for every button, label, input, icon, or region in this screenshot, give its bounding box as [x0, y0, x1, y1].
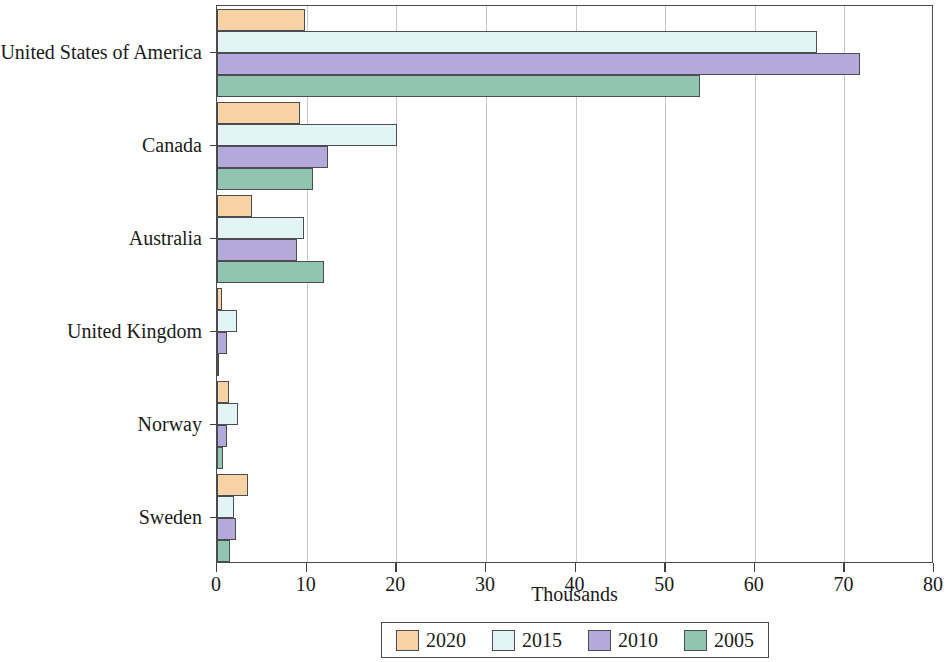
legend-label: 2015: [522, 630, 562, 650]
x-axis-tick: [754, 563, 755, 572]
bar: [217, 474, 248, 496]
x-axis-tick: [575, 563, 576, 572]
x-axis-title: Thousands: [216, 583, 933, 606]
x-axis-tick: [395, 563, 396, 572]
bar: [217, 217, 304, 239]
bar: [217, 9, 305, 31]
legend-swatch: [684, 630, 707, 651]
bar: [217, 354, 219, 376]
bar: [217, 168, 313, 190]
bar: [217, 496, 234, 518]
plot-area: [216, 5, 933, 563]
y-axis-label: Canada: [142, 135, 202, 155]
bar: [217, 381, 229, 403]
bar-group: [217, 99, 932, 192]
bar: [217, 146, 328, 168]
legend-swatch: [492, 630, 515, 651]
bar: [217, 540, 230, 562]
bar: [217, 425, 227, 447]
legend-entry[interactable]: 2005: [684, 630, 754, 651]
bar: [217, 447, 223, 469]
legend-swatch: [588, 630, 611, 651]
bars-layer: [217, 6, 932, 562]
bar: [217, 310, 237, 332]
y-axis-label: Sweden: [139, 507, 202, 527]
bar-group: [217, 378, 932, 471]
bar: [217, 261, 324, 283]
bar: [217, 518, 236, 540]
bar: [217, 124, 397, 146]
bar-group: [217, 192, 932, 285]
x-axis-tick: [843, 563, 844, 572]
legend-entry[interactable]: 2015: [492, 630, 562, 651]
x-axis-tick: [306, 563, 307, 572]
bar: [217, 75, 700, 97]
bar: [217, 53, 860, 75]
legend-label: 2005: [714, 630, 754, 650]
bar: [217, 332, 227, 354]
bar-group: [217, 471, 932, 564]
bar: [217, 102, 300, 124]
legend-label: 2020: [426, 630, 466, 650]
x-axis-tick: [664, 563, 665, 572]
y-axis-label: United States of America: [0, 42, 202, 62]
x-axis-tick: [216, 563, 217, 572]
legend-entry[interactable]: 2010: [588, 630, 658, 651]
legend: 2020201520102005: [381, 622, 769, 658]
bar: [217, 239, 297, 261]
y-axis-label: United Kingdom: [67, 321, 202, 341]
y-axis-label: Norway: [138, 414, 202, 434]
x-axis-tick: [933, 563, 934, 572]
bar-chart: United States of AmericaCanadaAustraliaU…: [0, 0, 949, 662]
legend-swatch: [396, 630, 419, 651]
legend-entry[interactable]: 2020: [396, 630, 466, 651]
bar: [217, 195, 252, 217]
y-axis-label: Australia: [129, 228, 202, 248]
bar: [217, 403, 238, 425]
bar-group: [217, 6, 932, 99]
y-axis-labels: United States of AmericaCanadaAustraliaU…: [0, 5, 210, 563]
bar-group: [217, 285, 932, 378]
bar: [217, 288, 222, 310]
x-axis-ticks: 01020304050607080: [216, 563, 933, 573]
x-axis-tick: [485, 563, 486, 572]
legend-label: 2010: [618, 630, 658, 650]
bar: [217, 31, 817, 53]
